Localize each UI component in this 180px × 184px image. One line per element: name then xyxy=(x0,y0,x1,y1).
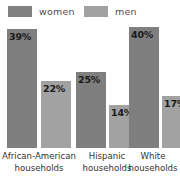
bar-women-hispanic: 25% xyxy=(76,72,106,148)
category-label-line1: African-American xyxy=(0,151,80,163)
bar-value-women-white: 40% xyxy=(131,29,153,40)
bar-women-white: 40% xyxy=(129,27,159,148)
category-label-african-american: African-American households xyxy=(0,151,80,174)
bar-women-african-american: 39% xyxy=(7,29,37,148)
category-label-line1: White xyxy=(124,151,180,163)
category-axis-labels: African-American households Hispanic hou… xyxy=(0,149,180,184)
plot-area: 39% 22% 25% 14% 40% 17% xyxy=(0,0,180,148)
bar-value-men-white: 17% xyxy=(164,98,180,109)
bar-men-african-american: 22% xyxy=(41,81,71,148)
bar-value-women-hispanic: 25% xyxy=(78,74,100,85)
bar-men-white: 17% xyxy=(162,96,180,148)
category-label-white: White households xyxy=(124,151,180,174)
bar-chart: women men 39% 22% 25% 14% 40% 17% xyxy=(0,0,180,184)
bar-value-women-african-american: 39% xyxy=(9,31,31,42)
bar-value-men-african-american: 22% xyxy=(43,83,65,94)
category-label-line2: households xyxy=(0,163,80,175)
category-label-line2: households xyxy=(124,163,180,175)
